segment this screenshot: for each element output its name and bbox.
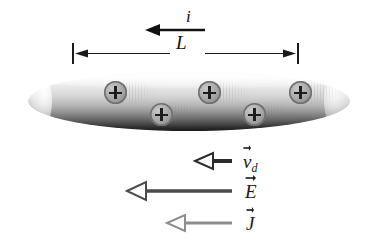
charge-carrier-3 [198, 81, 221, 104]
charge-carrier-2 [150, 103, 173, 126]
vector-arrow-accent-icon [246, 205, 254, 213]
electric-field-vector [127, 182, 232, 200]
current-label: i [186, 8, 191, 25]
vector-arrow-accent-icon [245, 173, 257, 181]
current-direction-arrow [145, 24, 205, 36]
current-density-vector [167, 215, 232, 231]
electric-field-symbol: E [245, 182, 257, 201]
electric-field-label: E [245, 182, 257, 201]
drift-velocity-vector [195, 153, 232, 169]
charge-carrier-4 [243, 103, 266, 126]
current-density-label: J [246, 214, 254, 233]
drift-velocity-label: v d [243, 152, 257, 174]
charge-carrier-1 [104, 81, 127, 104]
vector-arrow-accent-icon [243, 143, 251, 151]
drift-velocity-symbol: v [243, 152, 251, 171]
length-label: L [176, 33, 187, 52]
charge-carrier-5 [289, 81, 312, 104]
conductor-cylinder [28, 71, 350, 131]
physics-figure-current-in-conductor: i L v d [0, 0, 369, 252]
current-density-symbol: J [246, 214, 254, 233]
conductor-cap-left [26, 71, 52, 131]
